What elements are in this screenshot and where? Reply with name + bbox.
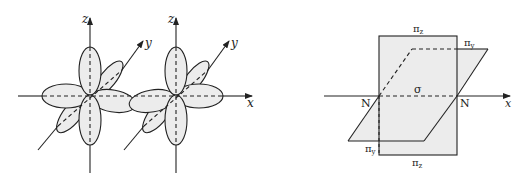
n-atom-right-label: N	[460, 97, 470, 110]
orbital-diagram-canvas: z y z y x πz πy σ N N x πy πz	[0, 0, 521, 180]
y-axis-label-2: y	[230, 36, 238, 50]
pi-z-label-top: πz	[413, 23, 424, 36]
y-axis-arrow-1	[122, 41, 143, 70]
z-axis-label-2: z	[167, 12, 175, 26]
y-axis-arrow-2	[208, 41, 229, 70]
z-axis-label-1: z	[81, 12, 89, 26]
n-atom-left-label: N	[361, 97, 371, 110]
y-axis-label-1: y	[144, 36, 152, 50]
x-axis-label-right: x	[505, 97, 512, 110]
p-orbitals-diagram	[18, 18, 252, 173]
pi-z-label-bottom: πz	[412, 157, 423, 170]
sigma-label: σ	[414, 83, 422, 96]
pi-y-label-bottom: πy	[365, 143, 376, 156]
pi-y-label-right: πy	[464, 37, 475, 50]
x-axis-label: x	[247, 96, 254, 110]
